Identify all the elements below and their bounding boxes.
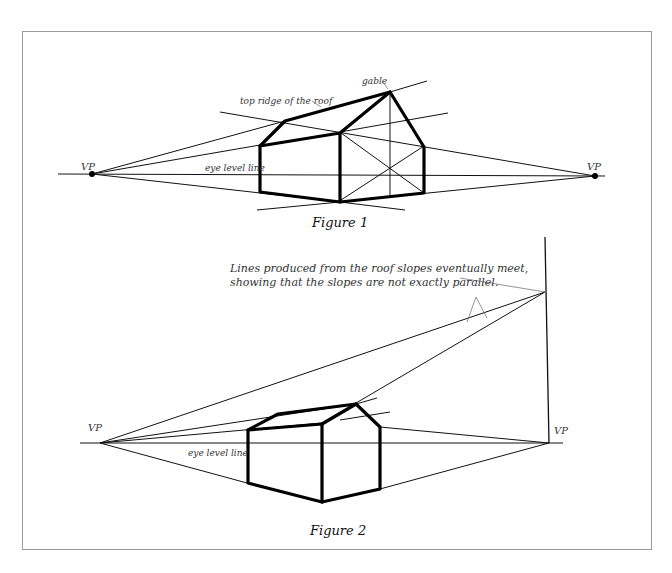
- vertical-line: [545, 237, 549, 443]
- construction-line: [380, 443, 549, 489]
- annotation-pointer: [467, 297, 487, 322]
- annotation-line-2: showing that the slopes are not exactly …: [230, 276, 498, 289]
- house-gable-end: [340, 92, 424, 202]
- figure-1: VP VP eye level line top ridge of the ro…: [58, 76, 605, 230]
- ridge-extension: [390, 81, 427, 92]
- eye-level-label: eye level line: [205, 163, 265, 173]
- eye-level-line: [58, 174, 605, 176]
- figure-2: VP VP eye level line Lines produced from…: [80, 237, 568, 538]
- ground-line: [340, 202, 405, 210]
- figure-1-caption: Figure 1: [311, 215, 368, 230]
- vp-left-label: VP: [81, 161, 95, 172]
- figure-2-caption: Figure 2: [309, 523, 366, 538]
- eave-extension: [340, 113, 448, 132]
- gable-diagonal: [341, 133, 424, 193]
- annotation-line-1: Lines produced from the roof slopes even…: [229, 262, 528, 275]
- vp-right-label: VP: [587, 161, 601, 172]
- house-side-wall: [260, 133, 340, 202]
- eye-level-label: eye level line: [188, 448, 248, 458]
- ground-line: [257, 202, 340, 210]
- gable-label: gable: [362, 76, 387, 86]
- gable-diagonal: [341, 146, 424, 200]
- house-side-wall: [248, 424, 322, 502]
- construction-line: [380, 427, 549, 443]
- top-ridge-label: top ridge of the roof: [240, 96, 334, 106]
- vp-left-label: VP: [88, 422, 102, 433]
- roof-slope-line: [100, 292, 545, 443]
- perspective-diagram: VP VP eye level line top ridge of the ro…: [0, 0, 672, 573]
- vp-right-label: VP: [554, 425, 568, 436]
- vanishing-point-right: [592, 173, 598, 179]
